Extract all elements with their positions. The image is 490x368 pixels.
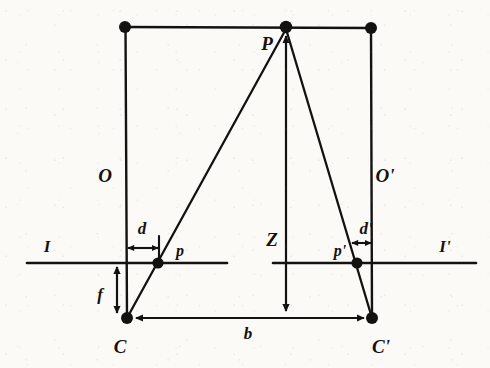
label-focal-length-f: f — [97, 286, 103, 303]
node-left-image-point-p — [152, 257, 163, 268]
label-right-camera-center-C-prime: C' — [372, 337, 390, 356]
node-scene-point-P — [280, 21, 292, 33]
node-left-top — [119, 21, 131, 33]
node-left-camera-center-C — [121, 312, 133, 324]
figure-canvas — [0, 0, 490, 368]
node-right-camera-center-C-prime — [366, 312, 378, 324]
label-left-camera-center-C: C — [114, 337, 127, 356]
label-scene-point-P: P — [261, 34, 273, 53]
right-optical-axis-line — [371, 28, 372, 318]
label-disparity-d-prime: d' — [359, 220, 372, 237]
stereo-geometry-figure: P O O' I I' p p' d d' f Z b C C' — [0, 0, 490, 368]
left-optical-axis-line — [126, 27, 128, 318]
left-projection-ray — [127, 29, 286, 318]
label-left-optical-axis-O: O — [98, 166, 112, 185]
label-left-image-point-p: p — [176, 243, 184, 259]
top-construction-line — [125, 27, 371, 28]
label-right-image-point-p-prime: p' — [334, 243, 346, 259]
node-right-image-point-p-prime — [351, 257, 362, 268]
right-projection-ray — [286, 29, 372, 318]
label-baseline-b: b — [244, 325, 253, 342]
label-right-optical-axis-O-prime: O' — [376, 166, 395, 185]
label-depth-Z: Z — [266, 230, 278, 249]
node-right-top — [365, 22, 377, 34]
label-right-image-plane-I-prime: I' — [439, 238, 450, 255]
label-left-image-plane-I: I — [44, 238, 51, 255]
label-disparity-d: d — [138, 220, 147, 237]
